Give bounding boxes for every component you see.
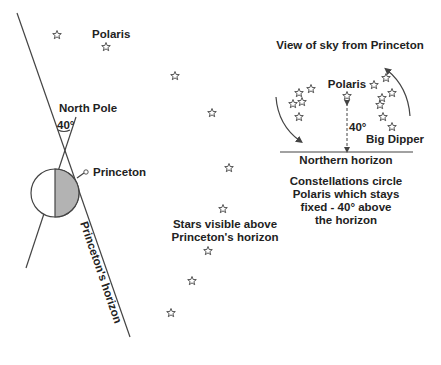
- caption-line-2: Polaris which stays: [293, 188, 400, 200]
- big-dipper-star-icon: [379, 113, 388, 121]
- princeton-label: Princeton: [93, 166, 146, 178]
- big-dipper-star-icon: [388, 123, 397, 131]
- princeton-marker-dot: [84, 170, 88, 174]
- horizon-label: Princeton's horizon: [78, 220, 124, 325]
- north-pole-label: North Pole: [59, 102, 117, 114]
- polaris-label: Polaris: [92, 28, 130, 40]
- sky-polaris-label: Polaris: [328, 78, 366, 90]
- star-icon: [102, 43, 111, 51]
- star-icon: [298, 98, 307, 106]
- stars-visible-label-line1: Stars visible above: [173, 218, 277, 230]
- star-icon: [171, 72, 180, 80]
- stars-visible-label-line2: Princeton's horizon: [172, 231, 279, 243]
- polaris-diagram: Polaris North Pole 40° Princeton Princet…: [0, 0, 441, 365]
- star-icon: [225, 164, 234, 172]
- angle-label: 40°: [57, 119, 75, 131]
- big-dipper-star-icon: [376, 101, 385, 109]
- star-icon: [295, 89, 304, 97]
- northern-horizon-label: Northern horizon: [299, 154, 392, 166]
- polaris-star-icon: [343, 92, 352, 100]
- big-dipper-star-icon: [378, 94, 387, 102]
- caption-line-1: Constellations circle: [290, 175, 402, 187]
- star-icon: [289, 100, 298, 108]
- star-icon: [53, 31, 62, 39]
- big-dipper-label: Big Dipper: [366, 133, 425, 145]
- caption-line-3: fixed - 40° above: [301, 201, 392, 213]
- big-dipper-star-icon: [370, 81, 379, 89]
- big-dipper-star-icon: [388, 89, 397, 97]
- sky-view-diagram: View of sky from Princeton Polaris 40° B…: [276, 39, 425, 226]
- sky-view-title: View of sky from Princeton: [276, 39, 423, 51]
- star-icon: [295, 113, 304, 121]
- star-icon: [188, 277, 197, 285]
- earth-shaded-half: [55, 169, 79, 217]
- big-dipper-star-icon: [382, 74, 391, 82]
- princeton-marker-line: [77, 173, 84, 178]
- star-icon: [204, 247, 213, 255]
- star-icon: [307, 85, 316, 93]
- sky-angle-label: 40°: [349, 121, 367, 133]
- star-icon: [219, 205, 228, 213]
- star-icon: [167, 309, 176, 317]
- star-icon: [208, 109, 217, 117]
- earth-diagram: Polaris North Pole 40° Princeton Princet…: [17, 13, 278, 337]
- caption-line-4: the horizon: [315, 214, 377, 226]
